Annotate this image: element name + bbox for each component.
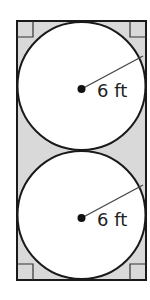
diagram-canvas: 6 ft 6 ft: [0, 0, 150, 300]
top-center-dot: [78, 85, 86, 93]
bottom-center-dot: [78, 214, 86, 222]
bottom-radius-label: 6 ft: [97, 209, 127, 230]
top-radius-label: 6 ft: [97, 80, 127, 101]
